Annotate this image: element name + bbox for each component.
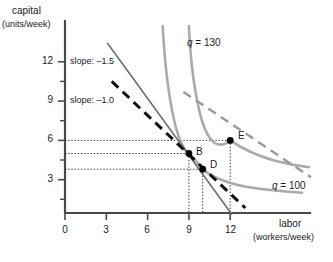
y-tick-label-3: 3 <box>33 173 53 185</box>
x-axis-title: labor <box>279 218 301 230</box>
y-axis-title: capital <box>12 5 41 17</box>
slope-flat-annotation: slope: –1.0 <box>70 95 114 105</box>
y-axis-subtitle: (units/week) <box>2 19 51 29</box>
point-label-B: B <box>196 146 203 158</box>
data-point-D[interactable] <box>199 166 206 173</box>
isoquant-q130-label: q = 130 <box>187 37 221 49</box>
point-label-D: D <box>210 159 217 171</box>
isoquant-q100-value: = 100 <box>278 180 306 191</box>
x-tick-label-9: 9 <box>183 224 195 236</box>
data-point-B[interactable] <box>186 150 193 157</box>
isocost-steep-line <box>108 44 232 215</box>
isoquant-q130-lower <box>230 140 309 167</box>
x-tick-label-6: 6 <box>141 224 153 236</box>
y-tick-label-12: 12 <box>33 55 53 67</box>
point-label-E: E <box>238 130 245 142</box>
isoquant-isocost-chart: capital (units/week) labor (workers/week… <box>0 0 333 262</box>
isoquant-q100-curve <box>163 26 302 193</box>
slope-steep-annotation: slope: –1.5 <box>70 56 114 66</box>
y-tick-label-6: 6 <box>33 133 53 145</box>
data-point-E[interactable] <box>227 137 234 144</box>
x-tick-label-3: 3 <box>100 224 112 236</box>
x-tick-label-0: 0 <box>59 224 71 236</box>
y-tick-label-9: 9 <box>33 94 53 106</box>
x-axis-subtitle: (workers/week) <box>253 232 314 242</box>
isoquant-q100-label: q = 100 <box>272 180 306 192</box>
x-tick-label-12: 12 <box>222 224 239 236</box>
isoquant-q130-value: = 130 <box>193 37 221 48</box>
